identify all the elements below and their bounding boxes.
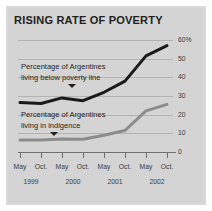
poverty-annotation-line1: Percentage of Argentines: [21, 62, 105, 73]
x-axis-tick: [104, 153, 105, 158]
x-axis-tick: [41, 153, 42, 158]
x-axis-tick-label: May: [14, 162, 27, 171]
indigence-annotation-line2: living in indigence: [21, 121, 105, 132]
x-axis-tick-label: Oct.: [77, 162, 89, 171]
chart-title: RISING RATE OF POVERTY: [14, 14, 163, 26]
y-axis-tick-label: 10: [178, 128, 186, 137]
y-axis-tick-label: 0: [178, 147, 182, 156]
y-axis-tick-label: 20: [178, 110, 186, 119]
series-lines: [18, 40, 173, 152]
x-axis-tick-label: Oct.: [119, 162, 131, 171]
x-axis-tick-label: May: [98, 162, 111, 171]
indigence-annotation-pointer-icon: [50, 132, 58, 136]
y-axis-tick-label: 30: [178, 91, 186, 100]
x-axis-year-label: 1999: [23, 177, 38, 186]
poverty-annotation-line2: living below poverty line: [21, 73, 105, 84]
x-axis-tick: [125, 153, 126, 158]
poverty-annotation-pointer-icon: [68, 84, 76, 88]
x-axis-tick-label: May: [56, 162, 69, 171]
x-axis-tick-label: May: [140, 162, 153, 171]
x-axis-tick: [20, 153, 21, 158]
x-axis-year-label: 2000: [65, 177, 80, 186]
x-axis-tick: [83, 153, 84, 158]
poverty-annotation: Percentage of Argentines living below po…: [21, 62, 105, 83]
poverty-chart-figure: RISING RATE OF POVERTY 0102030405060% Ma…: [0, 0, 212, 211]
x-axis-tick-label: Oct.: [35, 162, 47, 171]
y-axis-tick-label: 50: [178, 54, 186, 63]
x-axis-year-label: 2002: [149, 177, 164, 186]
x-axis-year-label: 2001: [107, 177, 122, 186]
plot-area: [18, 40, 173, 152]
indigence-annotation-line1: Percentage of Argentines: [21, 110, 105, 121]
x-axis-tick: [146, 153, 147, 158]
y-axis-tick-label: 40: [178, 72, 186, 81]
y-axis-tick-label: 60%: [178, 35, 192, 44]
indigence-annotation: Percentage of Argentines living in indig…: [21, 110, 105, 131]
x-axis-tick-label: Oct.: [161, 162, 173, 171]
x-axis-tick: [62, 153, 63, 158]
x-axis-tick: [167, 153, 168, 158]
